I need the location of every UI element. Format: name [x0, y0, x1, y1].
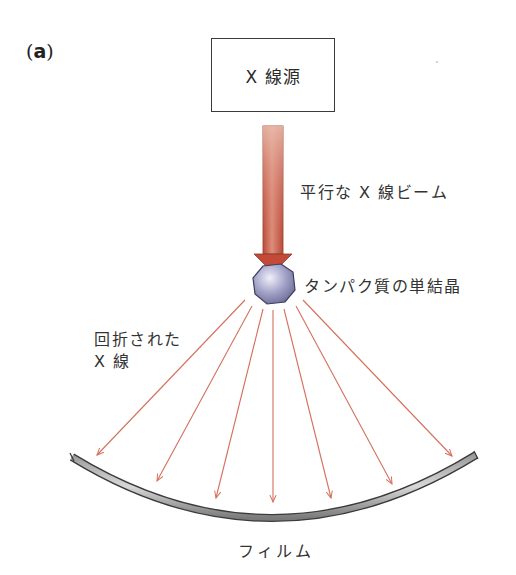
beam-label: 平行な X 線ビーム — [300, 179, 448, 203]
ray-5 — [284, 309, 331, 498]
ray-7 — [303, 300, 452, 456]
speck — [436, 61, 438, 63]
crystal-label: タンパク質の単結晶 — [304, 273, 462, 297]
beam-arrow — [254, 126, 292, 273]
diffracted-label: 回折された X 線 — [94, 329, 182, 373]
diffracted-label-line2: X 線 — [94, 351, 182, 373]
ray-6 — [296, 306, 392, 484]
film-arc — [70, 451, 478, 518]
ray-1 — [97, 300, 245, 455]
diffracted-label-line1: 回折された — [94, 329, 182, 351]
crystal-icon — [253, 264, 295, 304]
ray-3 — [216, 309, 263, 498]
film-label: フィルム — [238, 538, 314, 562]
